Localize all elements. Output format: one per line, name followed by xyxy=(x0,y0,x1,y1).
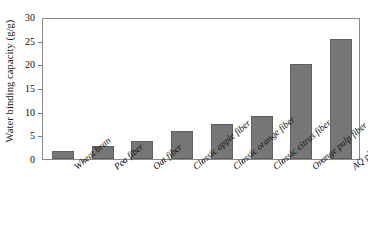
y-tick-label: 30 xyxy=(25,11,35,24)
x-axis-category-label: Classic orange fiber xyxy=(231,164,238,172)
x-axis-category-label: Oat fiber xyxy=(151,164,158,172)
x-axis-category-label: Pea fiber xyxy=(112,164,119,172)
x-axis-category-label: Wheat bran xyxy=(72,164,79,172)
x-axis-category-label: Classic citrus fiber xyxy=(271,164,278,172)
y-tick-label: 5 xyxy=(30,129,35,142)
bar xyxy=(52,151,74,159)
x-axis-category-label: Orange pulp fiber xyxy=(310,164,317,172)
x-axis-category-label: Classic apple fiber xyxy=(191,164,198,172)
y-tick-label: 20 xyxy=(25,58,35,71)
chart-container: Water binding capacity (g/g) 05101520253… xyxy=(0,0,368,241)
y-tick-label: 25 xyxy=(25,35,35,48)
x-axis-category-label: AQ plus citrus xyxy=(350,164,357,172)
y-tick-label: 0 xyxy=(30,153,35,166)
x-axis-labels: Wheat branPea fiberOat fiberClassic appl… xyxy=(42,162,360,241)
y-tick-label: 15 xyxy=(25,82,35,95)
y-tick-label: 10 xyxy=(25,106,35,119)
y-axis-ticks: 051015202530 xyxy=(0,18,42,160)
